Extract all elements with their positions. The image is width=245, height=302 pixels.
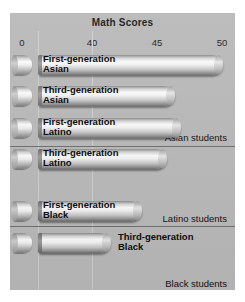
- axis-origin-stub: [13, 149, 32, 169]
- axis-origin-stub: [13, 55, 32, 75]
- bar-label-third-generation-latino: Third-generation Latino: [43, 148, 118, 167]
- bar-label-line2: Asian: [43, 95, 118, 105]
- bar-label-first-generation-asian: First-generation Asian: [43, 54, 115, 73]
- axis-tick-0: 0: [19, 37, 24, 48]
- chart-title: Math Scores: [10, 17, 235, 28]
- bar-label-third-generation-black: Third-generation Black: [118, 232, 193, 251]
- bar-label-line2: Black: [43, 210, 115, 220]
- plot-area: First-generation Asian Third-generation …: [10, 50, 235, 290]
- bar-row[interactable]: Third-generation Black: [10, 230, 235, 257]
- bar-label-line2: Latino: [43, 158, 118, 168]
- bar-row[interactable]: First-generation Latino: [10, 115, 235, 142]
- bar-label-third-generation-asian: Third-generation Asian: [43, 85, 118, 104]
- bar-label-first-generation-latino: First-generation Latino: [43, 117, 115, 136]
- group-separator: [10, 226, 235, 227]
- group-label-black-students: Black students: [165, 278, 227, 289]
- x-axis-tick-labels: 0 40 45 50: [10, 37, 235, 50]
- axis-origin-stub: [13, 233, 32, 253]
- bar-label-first-generation-black: First-generation Black: [43, 200, 115, 219]
- bar-row[interactable]: First-generation Black: [10, 198, 235, 225]
- bar-label-line2: Asian: [43, 64, 115, 74]
- bar-row[interactable]: Third-generation Asian: [10, 83, 235, 110]
- chart-panel: Math Scores 0 40 45 50 First-generation …: [10, 13, 235, 290]
- axis-origin-stub: [13, 86, 32, 106]
- axis-tick-50: 50: [217, 37, 228, 48]
- bar-third-generation-black[interactable]: [38, 233, 110, 253]
- bar-row[interactable]: First-generation Asian: [10, 52, 235, 79]
- axis-origin-stub: [13, 118, 32, 138]
- axis-origin-stub: [13, 201, 32, 221]
- axis-tick-45: 45: [152, 37, 163, 48]
- bar-label-line2: Latino: [43, 127, 115, 137]
- bar-label-line2: Black: [118, 242, 193, 252]
- bar-row[interactable]: Third-generation Latino: [10, 146, 235, 173]
